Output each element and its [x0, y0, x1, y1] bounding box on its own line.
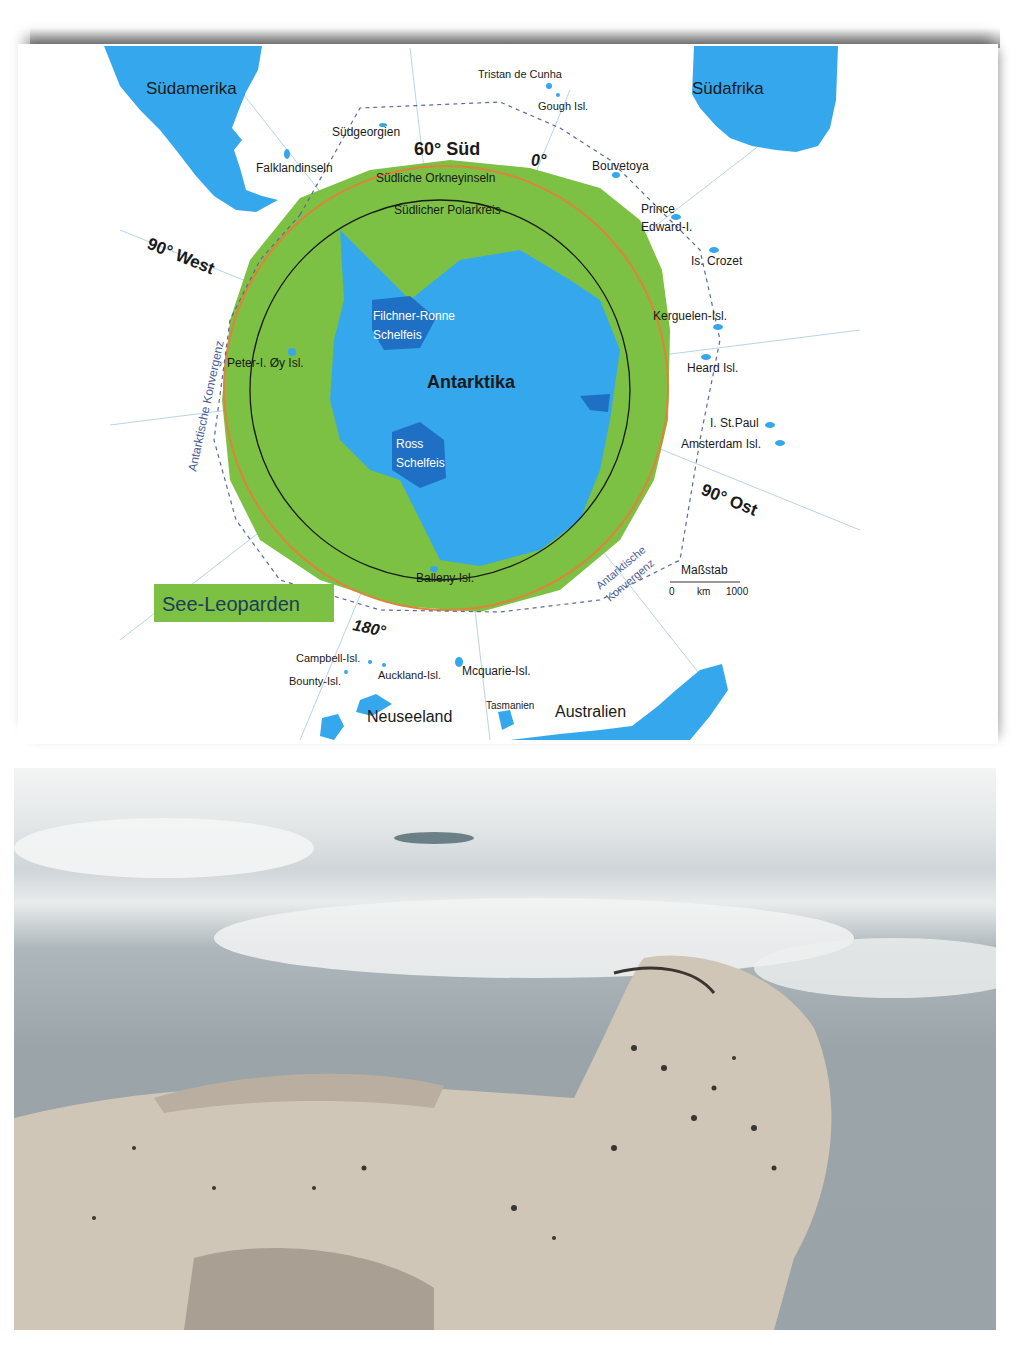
svg-text:Auckland-Isl.: Auckland-Isl.	[378, 669, 441, 681]
svg-text:Falklandinseln: Falklandinseln	[256, 161, 333, 175]
svg-text:Heard Isl.: Heard Isl.	[687, 361, 738, 375]
svg-text:0: 0	[669, 586, 675, 597]
svg-text:Australien: Australien	[555, 703, 626, 720]
label-suedamerika: Südamerika	[146, 79, 237, 98]
legend-label: See-Leoparden	[162, 593, 300, 615]
label-convergence-west: Antarktische Konvergenz	[185, 339, 226, 472]
svg-text:Südliche Orkneyinseln: Südliche Orkneyinseln	[376, 171, 495, 185]
svg-text:Kerguelen-Isl.: Kerguelen-Isl.	[653, 309, 727, 323]
svg-text:Peter-I. Øy Isl.: Peter-I. Øy Isl.	[227, 356, 304, 370]
label-0-deg: 0°	[531, 152, 547, 169]
svg-text:Bounty-Isl.: Bounty-Isl.	[289, 675, 341, 687]
label-180: 180°	[351, 616, 387, 640]
svg-text:Neuseeland: Neuseeland	[367, 708, 452, 725]
svg-text:Maßstab: Maßstab	[681, 563, 728, 577]
svg-text:Campbell-Isl.: Campbell-Isl.	[296, 652, 360, 664]
leopard-seal-photo	[14, 768, 996, 1330]
svg-text:Tasmanien: Tasmanien	[486, 700, 534, 711]
svg-text:1000: 1000	[726, 586, 749, 597]
svg-text:Edward-I.: Edward-I.	[641, 220, 692, 234]
svg-text:Balleny Isl.: Balleny Isl.	[416, 571, 474, 585]
svg-text:I. St.Paul: I. St.Paul	[710, 416, 759, 430]
label-ross-2: Schelfeis	[396, 456, 445, 470]
label-filchner-2: Schelfeis	[373, 328, 422, 342]
antarctica-map: Südamerika Südafrika Antarktika Filchner…	[18, 44, 998, 744]
svg-text:Bouvetoya: Bouvetoya	[592, 159, 649, 173]
svg-text:Is. Crozet: Is. Crozet	[691, 254, 743, 268]
label-ross: Ross	[396, 437, 423, 451]
label-60-sued: 60° Süd	[414, 139, 480, 159]
svg-text:Südlicher Polarkreis: Südlicher Polarkreis	[394, 203, 501, 217]
svg-text:Gough Isl.: Gough Isl.	[538, 100, 588, 112]
svg-text:Mcquarie-Isl.: Mcquarie-Isl.	[462, 664, 531, 678]
svg-text:Südgeorgien: Südgeorgien	[332, 125, 400, 139]
label-90-west: 90° West	[145, 234, 218, 278]
label-filchner: Filchner-Ronne	[373, 309, 455, 323]
svg-text:Prince: Prince	[641, 202, 675, 216]
label-suedafrika: Südafrika	[692, 79, 764, 98]
svg-text:Amsterdam Isl.: Amsterdam Isl.	[681, 437, 761, 451]
svg-text:km: km	[697, 586, 710, 597]
scale-bar: Maßstab 0 km 1000	[669, 563, 749, 597]
label-antarktika: Antarktika	[427, 372, 516, 392]
svg-text:Tristan de Cunha: Tristan de Cunha	[478, 68, 563, 80]
